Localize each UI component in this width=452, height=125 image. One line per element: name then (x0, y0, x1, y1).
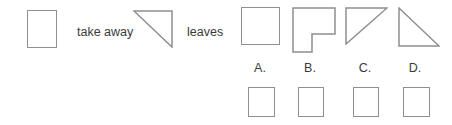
option-c-triangle-icon (345, 7, 388, 45)
option-label-a: A. (249, 61, 271, 75)
answer-box-d[interactable] (403, 87, 430, 117)
option-label-c: C. (354, 61, 376, 75)
question-square-icon (27, 10, 57, 48)
take-away-label: take away (77, 25, 133, 39)
answer-box-a[interactable] (248, 87, 275, 117)
leaves-label: leaves (187, 25, 223, 39)
option-d-triangle-icon (398, 7, 440, 47)
answer-box-c[interactable] (353, 87, 379, 117)
question-triangle-icon (133, 10, 173, 48)
option-label-b: B. (299, 61, 321, 75)
option-label-d: D. (404, 61, 426, 75)
option-b-notched-square-icon (292, 7, 336, 53)
answer-box-b[interactable] (298, 87, 324, 117)
worksheet-question: take away leaves A. B. C. D. (0, 0, 452, 125)
option-a-square-icon (241, 7, 280, 45)
